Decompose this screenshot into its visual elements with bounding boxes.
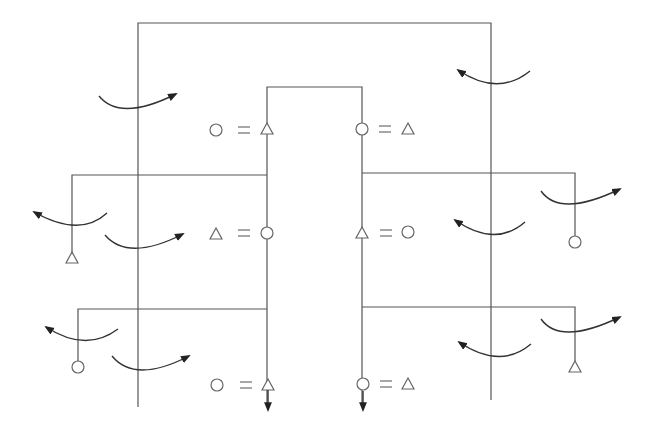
diagram-canvas [0, 0, 650, 438]
circle-icon [72, 361, 84, 373]
equation-mid-left [210, 227, 273, 239]
circle-icon [402, 226, 414, 238]
curved-arrow-right-icon [112, 356, 189, 370]
equation-bottom-right [357, 378, 414, 390]
curved-arrow-right-icon [105, 234, 183, 248]
right-branch-lower [362, 307, 581, 372]
inner-frame [267, 87, 362, 403]
gear-diagram [0, 0, 650, 438]
equation-top-right [356, 123, 414, 135]
triangle-icon [402, 123, 414, 134]
left-branch-upper [66, 175, 267, 263]
curved-arrow-right-icon [541, 189, 620, 204]
triangle-icon [402, 378, 414, 389]
circle-icon [210, 124, 222, 136]
left-branch-lower [72, 309, 267, 373]
triangle-icon [569, 361, 581, 372]
equation-bottom-left [211, 379, 274, 391]
curved-arrow-left-icon [458, 70, 530, 84]
triangle-icon [210, 228, 222, 239]
circle-icon [261, 227, 273, 239]
circle-icon [356, 123, 368, 135]
triangle-icon [356, 227, 368, 238]
equation-top-left [210, 123, 273, 136]
curved-arrow-right-icon [541, 317, 620, 332]
triangle-icon [66, 252, 78, 263]
circle-icon [357, 378, 369, 390]
equation-mid-right [356, 226, 414, 238]
curved-arrow-left-icon [46, 327, 118, 341]
triangle-icon [261, 123, 273, 134]
outer-frame [138, 23, 491, 407]
curved-arrow-left-icon [459, 342, 531, 357]
circle-icon [211, 379, 223, 391]
triangle-icon [262, 379, 274, 390]
rotation-arrows [34, 70, 620, 370]
curved-arrow-left-icon [455, 220, 525, 235]
circle-icon [569, 236, 581, 248]
right-branch-upper [362, 173, 581, 248]
curved-arrow-left-icon [34, 212, 107, 225]
